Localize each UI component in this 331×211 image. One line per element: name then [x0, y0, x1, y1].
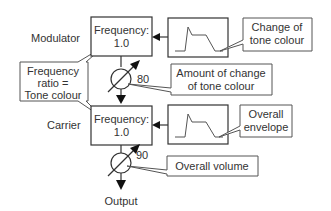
overall-volume-line1: Overall volume [175, 160, 248, 172]
frequency-ratio-line1: Frequency [27, 65, 79, 77]
frequency-ratio-line3: Tone colour [25, 89, 82, 101]
carrier-frequency-value: 1.0 [114, 126, 129, 138]
modulator-envelope-arrow-icon [152, 33, 160, 41]
modulator-level-value: 80 [137, 73, 149, 85]
modulator-label: Modulator [31, 32, 80, 44]
output-arrow-icon [116, 180, 126, 190]
change-tone-line1: Change of [252, 21, 304, 33]
change-tone-line2: tone colour [250, 34, 305, 46]
modulator-to-carrier-arrow-icon [116, 95, 126, 104]
overall-envelope-line1: Overall [249, 108, 284, 120]
modulator-frequency-label: Frequency: [94, 24, 149, 36]
carrier-envelope-box [168, 105, 228, 144]
overall-envelope-line2: envelope [244, 121, 289, 133]
carrier-envelope-arrow-icon [152, 121, 160, 129]
modulator-frequency-value: 1.0 [114, 37, 129, 49]
carrier-frequency-label: Frequency: [94, 113, 149, 125]
fm-synthesis-diagram: Frequency ratio = Tone colour Modulator … [0, 0, 331, 211]
carrier-label: Carrier [47, 119, 81, 131]
amount-change-line1: Amount of change [176, 67, 265, 79]
carrier-volume-value: 90 [136, 149, 148, 161]
output-label: Output [104, 195, 137, 207]
amount-change-line2: of tone colour [188, 80, 255, 92]
frequency-ratio-line2: ratio = [38, 77, 69, 89]
